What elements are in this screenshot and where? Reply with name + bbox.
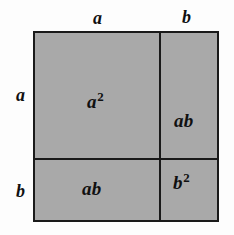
- cell-label-b-squared-exponent: 2: [183, 170, 190, 185]
- cell-label-ab-bottom-base: ab: [82, 178, 101, 199]
- cell-label-b-squared: b2: [173, 173, 190, 192]
- cell-label-a-squared: a2: [87, 92, 104, 111]
- cell-label-b-squared-base: b: [173, 172, 183, 193]
- dimension-label-top-b: b: [182, 8, 191, 26]
- dimension-label-left-b: b: [16, 182, 25, 200]
- cell-label-a-squared-base: a: [87, 91, 97, 112]
- dimension-label-left-a: a: [16, 86, 25, 104]
- vertical-divider-line: [159, 33, 161, 220]
- cell-label-ab-top-base: ab: [174, 110, 193, 131]
- outer-square: a2 ab ab b2: [33, 31, 219, 222]
- binomial-square-diagram: a b a b a2 ab ab b2: [0, 0, 234, 235]
- cell-label-ab-top: ab: [174, 111, 193, 130]
- dimension-label-top-a: a: [93, 9, 102, 27]
- cell-label-a-squared-exponent: 2: [97, 89, 104, 104]
- cell-label-ab-bottom: ab: [82, 179, 101, 198]
- horizontal-divider-line: [35, 158, 217, 160]
